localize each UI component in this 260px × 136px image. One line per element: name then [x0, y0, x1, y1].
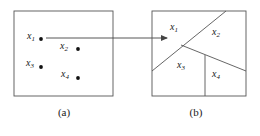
point-label-x1-subscript: 1 — [31, 35, 35, 43]
region-label-x1-subscript: 1 — [174, 26, 178, 34]
data-point-x4 — [76, 76, 80, 80]
panel-b-caption: (b) — [132, 106, 260, 118]
point-label-x4-subscript: 4 — [65, 73, 69, 81]
region-label-x1: x1 — [170, 22, 178, 32]
data-point-x3 — [39, 65, 43, 69]
region-label-x2: x2 — [212, 27, 220, 37]
data-point-x1 — [39, 37, 43, 41]
partition-line-diagonal-main — [152, 11, 226, 71]
region-label-x3: x3 — [177, 60, 185, 70]
point-label-x4: x4 — [61, 69, 69, 79]
point-label-x2-subscript: 2 — [64, 45, 68, 53]
point-label-x1: x1 — [27, 31, 35, 41]
data-point-x2 — [76, 47, 80, 51]
point-label-x3: x3 — [26, 58, 34, 68]
region-label-x2-subscript: 2 — [216, 31, 220, 39]
panel-a-boundary-box — [14, 11, 113, 96]
panel-a-caption: (a) — [0, 106, 128, 118]
panel-b-boundary-box — [152, 11, 246, 96]
point-label-x3-subscript: 3 — [30, 62, 34, 70]
figure-container: x1 x2 x3 x4 x1 x2 x3 x4 (a) (b) — [0, 0, 260, 136]
point-label-x2: x2 — [60, 41, 68, 51]
region-label-x3-subscript: 3 — [181, 64, 185, 72]
region-label-x4: x4 — [212, 69, 220, 79]
region-label-x4-subscript: 4 — [216, 73, 220, 81]
